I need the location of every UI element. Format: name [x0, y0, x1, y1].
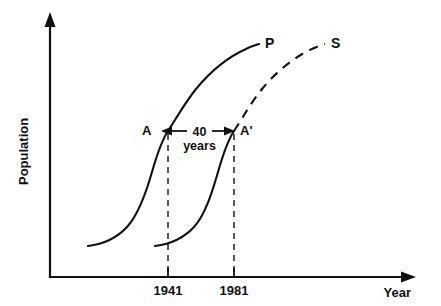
- curve-label-s: S: [331, 35, 340, 51]
- y-axis-title: Population: [16, 118, 31, 185]
- curve-label-p: P: [265, 35, 274, 51]
- y-axis: [45, 12, 56, 277]
- curve-s-dashed-segment: [234, 44, 325, 131]
- x-axis-arrow-icon: [401, 272, 416, 283]
- gap-measure-unit: years: [183, 139, 216, 153]
- chart-canvas: 1941 1981 Year Population P S A A' 40 ye…: [0, 0, 441, 306]
- gap-measure-annotation: 40 years: [161, 125, 235, 153]
- x-tick-marks: [168, 268, 234, 277]
- point-label-a-prime: A': [240, 123, 252, 138]
- point-label-a: A: [142, 123, 152, 138]
- x-axis: [50, 272, 416, 283]
- x-axis-title: Year: [384, 285, 411, 300]
- population-growth-chart: 1941 1981 Year Population P S A A' 40 ye…: [0, 0, 441, 306]
- x-tick-label-1981: 1981: [220, 283, 249, 298]
- x-tick-label-1941: 1941: [154, 283, 183, 298]
- y-axis-arrow-icon: [45, 12, 56, 27]
- gap-measure-value: 40: [193, 125, 207, 139]
